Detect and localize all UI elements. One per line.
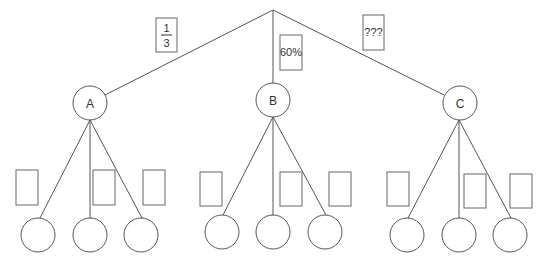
edge-A-leaf1 (40, 120, 90, 218)
node-A-label: A (86, 97, 94, 111)
node-C: C (443, 86, 477, 120)
edge-label-B-text: 60% (280, 46, 302, 58)
node-B: B (256, 83, 290, 117)
leaf-label-box-C3 (510, 174, 532, 208)
edge-C-leaf1 (408, 120, 459, 218)
tree-svg: 1 3 60% ??? A B C (0, 0, 546, 265)
leaf-node-B1 (205, 215, 239, 249)
edge-B-leaf1 (223, 117, 273, 215)
leaf-label-box-B1 (200, 172, 222, 206)
leaf-label-box-A2 (93, 170, 115, 205)
node-A: A (73, 86, 107, 120)
leaf-label-box-B2 (280, 172, 302, 206)
leaf-label-box-A3 (143, 170, 165, 205)
leaf-node-B3 (308, 215, 342, 249)
edge-label-A: 1 3 (156, 18, 177, 52)
edge-label-C-text: ??? (364, 26, 382, 38)
leaf-node-C1 (390, 218, 424, 252)
fraction-denominator: 3 (163, 37, 169, 49)
edge-root-A (105, 10, 273, 95)
leaf-node-A1 (21, 218, 55, 252)
leaf-label-box-A1 (16, 170, 38, 205)
leaf-label-box-B3 (329, 172, 351, 206)
leaf-node-B2 (256, 215, 290, 249)
fraction-numerator: 1 (163, 22, 169, 34)
leaf-label-box-C2 (464, 174, 486, 208)
leaf-node-C3 (493, 218, 527, 252)
node-C-label: C (456, 97, 465, 111)
probability-tree-diagram: 1 3 60% ??? A B C (0, 0, 546, 265)
edge-label-C: ??? (363, 15, 384, 50)
leaf-node-A2 (73, 218, 107, 252)
leaf-node-A3 (124, 218, 158, 252)
leaf-node-C2 (442, 218, 476, 252)
edge-label-B: 60% (280, 35, 302, 70)
leaf-label-box-C1 (387, 172, 409, 206)
node-B-label: B (269, 94, 277, 108)
